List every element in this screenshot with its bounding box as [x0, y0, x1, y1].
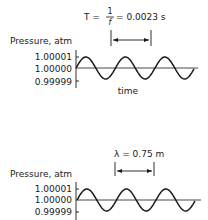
ytick-label-high: 1.00001 — [35, 52, 72, 62]
distance-graph: λ = 0.75 m Pressure, atm 1.00001 1.00000… — [10, 149, 201, 220]
ytick-label-high: 1.00001 — [35, 184, 72, 194]
y-axis-label: Pressure, atm — [10, 36, 72, 46]
wavelength-label: λ = 0.75 m — [114, 149, 164, 159]
ytick-label-mid: 1.00000 — [35, 64, 72, 74]
pressure-wave-diagram: T = 1 f = 0.0023 s Pressure, atm 1.00001… — [0, 0, 208, 220]
y-axis-label: Pressure, atm — [10, 169, 72, 179]
ytick-label-mid: 1.00000 — [35, 195, 72, 205]
ytick-label-low: 0.99999 — [35, 207, 72, 217]
period-frac-den: f — [109, 18, 113, 27]
period-value: = 0.0023 s — [116, 12, 166, 22]
period-prefix: T = — [83, 12, 100, 22]
x-axis-label: time — [118, 86, 139, 96]
arrowhead-left — [113, 38, 118, 42]
arrowhead-right — [144, 38, 149, 42]
time-graph: T = 1 f = 0.0023 s Pressure, atm 1.00001… — [10, 7, 198, 96]
period-frac-num: 1 — [107, 7, 112, 16]
arrowhead-left — [117, 169, 122, 173]
ytick-label-low: 0.99999 — [35, 77, 72, 87]
arrowhead-right — [147, 169, 152, 173]
